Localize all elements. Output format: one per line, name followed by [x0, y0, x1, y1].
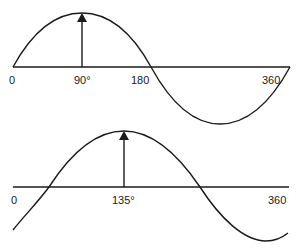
- phase-shift-diagram: 0 90° 180 360 0 135° 360: [0, 0, 300, 248]
- top-label-180: 180: [131, 74, 149, 86]
- top-arrowhead-icon: [77, 13, 87, 22]
- bottom-label-0: 0: [11, 194, 17, 206]
- top-sine-curve: [13, 13, 290, 124]
- bottom-arrowhead-icon: [119, 131, 129, 140]
- top-label-360: 360: [262, 74, 280, 86]
- bottom-sine-curve: [13, 131, 288, 241]
- bottom-label-135: 135°: [112, 194, 135, 206]
- top-label-90: 90°: [74, 74, 91, 86]
- bottom-waveform: 0 135° 360: [11, 131, 289, 241]
- top-waveform: 0 90° 180 360: [9, 13, 290, 124]
- top-label-0: 0: [9, 74, 15, 86]
- bottom-label-360: 360: [268, 194, 286, 206]
